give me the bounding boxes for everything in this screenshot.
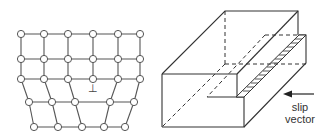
slip-label: slip — [275, 101, 325, 113]
vector-label: vector — [275, 113, 325, 125]
dislocation-symbol: ⊥ — [88, 83, 98, 94]
slip-step-hatch — [236, 35, 306, 97]
crystal-lattice — [17, 30, 143, 130]
slip-vector-arrow — [283, 91, 314, 98]
lattice-atoms — [17, 30, 143, 130]
dislocation-figure: ⊥ slip vector — [0, 0, 333, 138]
